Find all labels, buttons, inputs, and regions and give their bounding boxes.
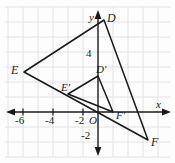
vertex-label-D-prime: D': [96, 64, 106, 75]
x-tick-label-neg6: -6: [15, 115, 24, 126]
y-axis-label: y: [89, 12, 94, 23]
vertex-label-E: E: [11, 64, 18, 76]
coordinate-plane-figure: D E F D' E' F' x y O -6 -4 -2 4 -2: [0, 0, 175, 163]
x-tick-label-neg4: -4: [45, 115, 54, 126]
y-tick-label-neg2: -2: [81, 130, 90, 141]
triangle-D-prime-E-prime-F-prime: [68, 76, 113, 112]
vertex-label-D: D: [107, 12, 116, 24]
x-axis-label: x: [156, 99, 161, 110]
y-tick-label-4: 4: [86, 48, 92, 59]
vertex-label-F-prime: F': [116, 110, 125, 121]
x-tick-label-neg2: -2: [75, 115, 84, 126]
vertex-label-F: F: [151, 136, 158, 148]
triangle-DEF: [24, 20, 148, 140]
origin-label: O: [89, 115, 97, 126]
vertex-label-E-prime: E': [61, 82, 70, 93]
